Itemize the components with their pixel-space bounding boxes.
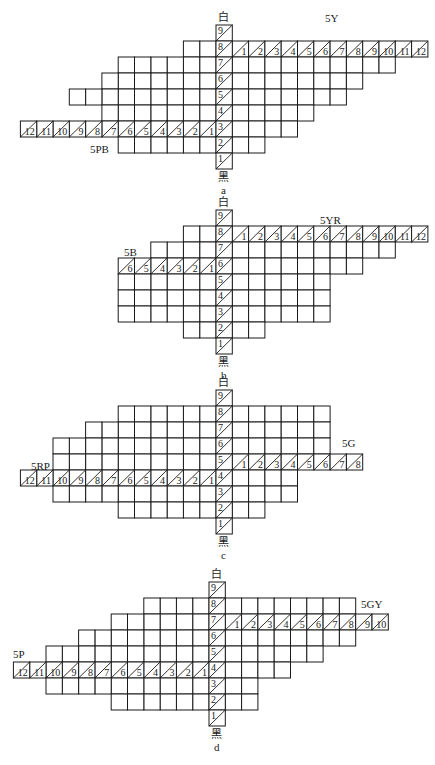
grid-cell bbox=[339, 598, 355, 614]
grid-cell bbox=[274, 646, 290, 662]
chroma-cell-5p-8-label: 8 bbox=[88, 667, 93, 678]
grid-cell bbox=[193, 598, 209, 614]
grid-cell bbox=[144, 678, 160, 694]
grid-cell bbox=[111, 694, 127, 710]
grid-cell bbox=[258, 662, 274, 678]
value-cell-2-label: 2 bbox=[211, 694, 216, 705]
grid-cell bbox=[242, 598, 258, 614]
grid-cell bbox=[62, 678, 78, 694]
chroma-cell-5gy-8-label: 8 bbox=[349, 619, 354, 630]
grid-cell bbox=[79, 646, 95, 662]
grid: 98123456789107651234567891011124321 bbox=[13, 582, 388, 726]
grid-cell bbox=[291, 598, 307, 614]
grid-cell bbox=[307, 646, 323, 662]
grid-cell bbox=[128, 630, 144, 646]
grid-cell bbox=[128, 614, 144, 630]
chroma-cell-5gy-2-label: 2 bbox=[251, 619, 256, 630]
grid-cell bbox=[144, 630, 160, 646]
grid-cell bbox=[323, 630, 339, 646]
value-cell-8-label: 8 bbox=[211, 598, 216, 609]
grid-cell bbox=[79, 630, 95, 646]
grid-cell bbox=[160, 598, 176, 614]
grid-cell bbox=[160, 646, 176, 662]
chroma-cell-5gy-3-label: 3 bbox=[267, 619, 272, 630]
chroma-cell-5p-11-label: 11 bbox=[34, 667, 44, 678]
grid-cell bbox=[307, 598, 323, 614]
grid-cell bbox=[176, 630, 192, 646]
grid-cell bbox=[128, 694, 144, 710]
value-cell-3-label: 3 bbox=[211, 678, 216, 689]
grid-cell bbox=[225, 662, 241, 678]
chroma-cell-5gy-6-label: 6 bbox=[316, 619, 321, 630]
grid-cell bbox=[111, 646, 127, 662]
black-end-label: 黑 bbox=[211, 728, 222, 740]
grid-cell bbox=[160, 694, 176, 710]
white-end-label: 白 bbox=[211, 568, 222, 580]
grid-cell bbox=[144, 598, 160, 614]
grid-cell bbox=[144, 614, 160, 630]
chroma-cell-5p-5-label: 5 bbox=[137, 667, 142, 678]
value-cell-7-label: 7 bbox=[211, 614, 216, 625]
chroma-cell-5p-7-label: 7 bbox=[104, 667, 109, 678]
grid-cell bbox=[160, 614, 176, 630]
grid-cell bbox=[307, 630, 323, 646]
grid-cell bbox=[323, 598, 339, 614]
grid-cell bbox=[274, 630, 290, 646]
grid-cell bbox=[193, 646, 209, 662]
chroma-cell-5gy-1-label: 1 bbox=[235, 619, 240, 630]
grid-cell bbox=[95, 678, 111, 694]
grid-cell bbox=[111, 614, 127, 630]
value-cell-5-label: 5 bbox=[211, 646, 216, 657]
grid-cell bbox=[193, 630, 209, 646]
grid-cell bbox=[242, 662, 258, 678]
grid-cell bbox=[258, 630, 274, 646]
grid-cell bbox=[160, 630, 176, 646]
chroma-cell-5gy-4-label: 4 bbox=[284, 619, 289, 630]
grid-cell bbox=[46, 646, 62, 662]
grid-cell bbox=[128, 646, 144, 662]
grid-cell bbox=[258, 646, 274, 662]
chroma-cell-5gy-7-label: 7 bbox=[332, 619, 337, 630]
grid-cell bbox=[274, 598, 290, 614]
chroma-cell-5p-6-label: 6 bbox=[121, 667, 126, 678]
grid-cell bbox=[291, 646, 307, 662]
chroma-cell-5p-2-label: 2 bbox=[186, 667, 191, 678]
value-cell-6-label: 6 bbox=[211, 630, 216, 641]
grid-cell bbox=[225, 678, 241, 694]
value-cell-9-label: 9 bbox=[211, 582, 216, 593]
grid-cell bbox=[111, 630, 127, 646]
grid-cell bbox=[225, 694, 241, 710]
grid-cell bbox=[111, 678, 127, 694]
grid-cell bbox=[176, 614, 192, 630]
grid-cell bbox=[242, 630, 258, 646]
grid-cell bbox=[160, 678, 176, 694]
chroma-cell-5p-3-label: 3 bbox=[169, 667, 174, 678]
chroma-cell-5p-9-label: 9 bbox=[72, 667, 77, 678]
grid-cell bbox=[193, 678, 209, 694]
grid-cell bbox=[128, 678, 144, 694]
grid-cell bbox=[242, 678, 258, 694]
grid-cell bbox=[46, 678, 62, 694]
grid-cell bbox=[274, 662, 290, 678]
grid-cell bbox=[339, 630, 355, 646]
grid-cell bbox=[176, 694, 192, 710]
grid-cell bbox=[242, 694, 258, 710]
grid-cell bbox=[193, 694, 209, 710]
subfigure-letter: d bbox=[214, 741, 220, 753]
value-cell-4-label: 4 bbox=[211, 662, 216, 673]
chroma-cell-5gy-10-label: 10 bbox=[376, 619, 386, 630]
grid-cell bbox=[176, 678, 192, 694]
chroma-cell-5gy-5-label: 5 bbox=[300, 619, 305, 630]
grid-cell bbox=[242, 646, 258, 662]
grid-cell bbox=[79, 678, 95, 694]
value-cell-1-label: 1 bbox=[211, 710, 216, 721]
chroma-cell-5p-1-label: 1 bbox=[202, 667, 207, 678]
grid-cell bbox=[95, 646, 111, 662]
grid-cell bbox=[193, 614, 209, 630]
grid-cell bbox=[176, 598, 192, 614]
grid-cell bbox=[95, 630, 111, 646]
grid-cell bbox=[258, 598, 274, 614]
chroma-cell-5p-10-label: 10 bbox=[50, 667, 60, 678]
chroma-cell-5gy-9-label: 9 bbox=[365, 619, 370, 630]
grid-cell bbox=[225, 630, 241, 646]
